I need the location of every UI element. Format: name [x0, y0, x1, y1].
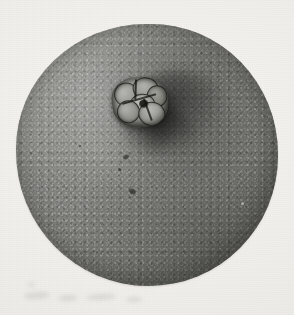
- orange-fruit: [16, 24, 278, 286]
- photographic-plate: [0, 0, 294, 315]
- paper-smudge: [126, 297, 142, 302]
- fruit-rim-shading: [16, 24, 278, 286]
- fruit-body: [16, 24, 278, 286]
